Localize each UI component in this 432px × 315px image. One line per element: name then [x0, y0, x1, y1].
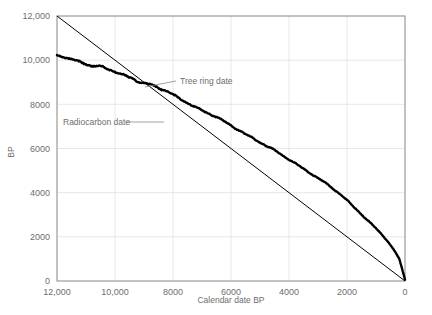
- y-axis-title: BP: [6, 146, 16, 158]
- y-tick-label: 8000: [30, 100, 50, 110]
- x-tick-label: 0: [402, 287, 407, 297]
- x-tick-label: 10,000: [101, 287, 129, 297]
- x-tick-label: 4000: [279, 287, 299, 297]
- y-tick-label: 2000: [30, 232, 50, 242]
- x-tick-label: 12,000: [43, 287, 71, 297]
- x-tick-label: 8000: [163, 287, 183, 297]
- x-axis-title: Calendar date BP: [197, 295, 264, 305]
- tree-ring-date-annotation: Tree ring date: [180, 76, 233, 86]
- y-tick-label: 4000: [30, 188, 50, 198]
- y-tick-label: 10,000: [22, 55, 50, 65]
- chart-canvas: 12,00010,00080006000400020000 0200040006…: [0, 0, 432, 315]
- radiocarbon-date-annotation: Radiocarbon date: [63, 117, 130, 127]
- y-tick-label: 12,000: [22, 11, 50, 21]
- y-axis-tick-labels: 0200040006000800010,00012,000: [22, 11, 50, 286]
- y-tick-label: 0: [45, 276, 50, 286]
- calibration-chart-figure: 12,00010,00080006000400020000 0200040006…: [0, 0, 432, 315]
- y-tick-label: 6000: [30, 144, 50, 154]
- x-tick-label: 2000: [337, 287, 357, 297]
